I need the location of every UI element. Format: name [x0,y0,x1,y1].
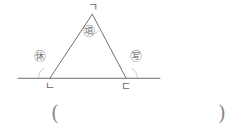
interior-apex-angle-label: ㊠ [83,26,95,38]
exterior-right-angle-label: ㊢ [130,51,142,63]
geometry-figure: ㄱ ㄴ ㄷ ㊠ ㊡ ㊢ ( ) [0,0,233,134]
exterior-left-angle-label: ㊡ [34,51,46,63]
apex-vertex-label: ㄱ [88,2,98,13]
answer-close-paren: ) [218,103,226,123]
triangle-left-side [50,14,92,78]
left-exterior-angle-arc [39,68,45,78]
answer-open-paren: ( [51,103,59,123]
triangle-right-side [92,14,126,78]
left-vertex-label: ㄴ [45,81,55,92]
figure-canvas [0,0,233,134]
right-exterior-angle-arc [132,69,138,79]
right-vertex-label: ㄷ [121,81,131,92]
